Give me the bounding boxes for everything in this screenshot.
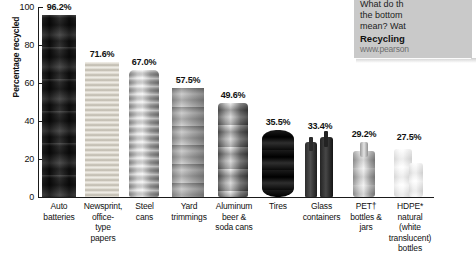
callout-box: What do th the bottom mean? Wat Recyclin… bbox=[352, 0, 472, 58]
category-line: papers bbox=[79, 233, 127, 244]
category-label-steel-cans: Steel cans bbox=[124, 201, 165, 222]
category-line: soda cans bbox=[209, 222, 259, 233]
x-axis-line bbox=[38, 197, 434, 198]
category-line: Yard bbox=[164, 201, 214, 212]
pet-bottle-neck-icon bbox=[360, 142, 368, 157]
bar-value-tires: 35.5% bbox=[266, 117, 291, 127]
bar-value-newsprint-papers: 71.6% bbox=[90, 49, 115, 59]
callout-line-4: Recycling bbox=[360, 33, 472, 44]
category-label-glass-containers: Glass containers bbox=[294, 201, 349, 222]
category-line: trimmings bbox=[164, 212, 214, 223]
category-label-hdpe-bottles: HDPE* natural (white translucent) bottle… bbox=[386, 201, 434, 254]
y-tick-0 bbox=[38, 197, 43, 198]
category-label-tires: Tires bbox=[258, 201, 298, 212]
y-tick-label-20: 20 bbox=[8, 154, 34, 164]
category-line: containers bbox=[294, 212, 349, 223]
category-label-auto-batteries: Auto batteries bbox=[35, 201, 83, 222]
category-line: batteries bbox=[35, 212, 83, 223]
category-line: beer & bbox=[209, 212, 259, 223]
glass-bottle-neck-icon bbox=[324, 131, 328, 147]
category-label-aluminum-cans: Aluminum beer & soda cans bbox=[209, 201, 259, 233]
category-line: HDPE* bbox=[386, 201, 434, 212]
glass-bottle-neck-icon bbox=[309, 137, 313, 151]
category-label-pet-bottles: PET† bottles & jars bbox=[343, 201, 389, 233]
bar-newsprint-papers: 71.6% bbox=[85, 62, 119, 197]
bar-auto-batteries: 96.2% bbox=[42, 15, 76, 197]
callout-url[interactable]: www.pearson bbox=[360, 44, 472, 55]
bar-value-steel-cans: 67.0% bbox=[132, 57, 157, 67]
y-tick-label-0: 0 bbox=[8, 192, 34, 202]
y-tick-100 bbox=[38, 7, 43, 8]
hdpe-jug-icon bbox=[409, 163, 423, 197]
bar-value-hdpe-bottles: 27.5% bbox=[397, 132, 422, 142]
y-tick-label-40: 40 bbox=[8, 116, 34, 126]
bar-tires: 35.5% bbox=[262, 130, 294, 197]
category-line: PET† bbox=[343, 201, 389, 212]
bar-value-pet-bottles: 29.2% bbox=[352, 129, 377, 139]
y-axis-title: Percentage recycled bbox=[11, 0, 21, 117]
bar-yard-trimmings: 57.5% bbox=[172, 88, 204, 197]
category-line: type bbox=[79, 222, 127, 233]
category-line: Steel bbox=[124, 201, 165, 212]
callout-shadow bbox=[356, 58, 476, 63]
bar-value-aluminum-cans: 49.6% bbox=[221, 90, 246, 100]
pet-bottle-icon bbox=[353, 151, 375, 197]
category-label-newsprint-papers: Newsprint, office- type papers bbox=[79, 201, 127, 243]
category-line: jars bbox=[343, 222, 389, 233]
category-line: Tires bbox=[258, 201, 298, 212]
category-line: office- bbox=[79, 212, 127, 223]
category-line: Aluminum bbox=[209, 201, 259, 212]
category-line: Auto bbox=[35, 201, 83, 212]
callout-line-2: the bottom bbox=[360, 10, 472, 21]
category-line: Glass bbox=[294, 201, 349, 212]
category-line: translucent) bbox=[386, 233, 434, 244]
bar-value-yard-trimmings: 57.5% bbox=[176, 75, 201, 85]
y-tick-label-80: 80 bbox=[8, 40, 34, 50]
bar-value-auto-batteries: 96.2% bbox=[47, 2, 72, 12]
category-label-yard-trimmings: Yard trimmings bbox=[164, 201, 214, 222]
y-tick-label-60: 60 bbox=[8, 78, 34, 88]
category-line: bottles & bbox=[343, 212, 389, 223]
bar-hdpe-bottles: 27.5% bbox=[394, 145, 424, 197]
category-line: natural bbox=[386, 212, 434, 223]
y-axis-line bbox=[38, 7, 39, 198]
bar-aluminum-cans: 49.6% bbox=[218, 103, 248, 197]
bar-glass-containers: 33.4% bbox=[303, 134, 337, 197]
category-line: cans bbox=[124, 212, 165, 223]
category-line: bottles bbox=[386, 243, 434, 254]
bar-value-glass-containers: 33.4% bbox=[308, 121, 333, 131]
callout-line-1: What do th bbox=[360, 0, 472, 10]
category-line: Newsprint, bbox=[79, 201, 127, 212]
bar-pet-bottles: 29.2% bbox=[351, 142, 377, 197]
bar-steel-cans: 67.0% bbox=[129, 70, 159, 197]
category-line: (white bbox=[386, 222, 434, 233]
y-tick-label-100: 100 bbox=[8, 2, 34, 12]
callout-line-3: mean? Wat bbox=[360, 21, 472, 32]
